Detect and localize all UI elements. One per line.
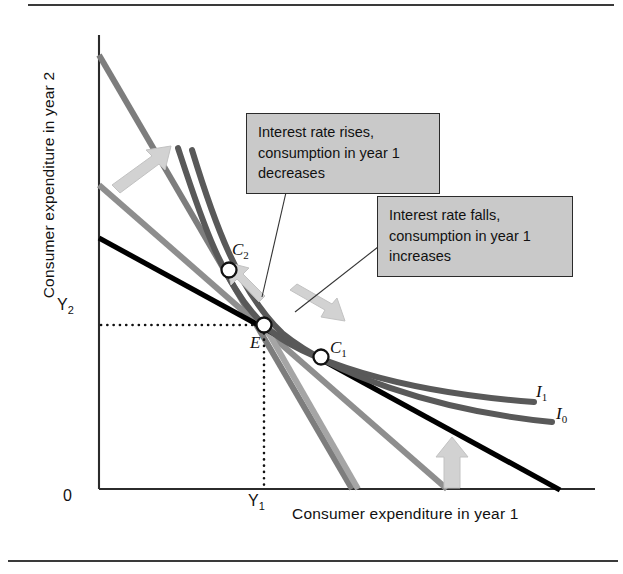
x-axis-title: Consumer expenditure in year 1: [292, 505, 519, 523]
point-label-E: E: [250, 333, 260, 353]
point-label-C1: C1: [330, 338, 347, 359]
curve-label-I1: I1: [536, 382, 547, 403]
point-E: [257, 318, 272, 333]
y2-tick-letter: Y: [57, 296, 68, 313]
point-C2: [222, 263, 237, 278]
y1-tick-subscript: 1: [259, 500, 265, 512]
point-label-C2-letter: C: [232, 240, 243, 259]
origin-label: 0: [63, 487, 72, 505]
curve-label-I1-subscript: 1: [542, 391, 548, 403]
y-axis-title: Consumer expenditure in year 2: [40, 40, 58, 330]
callout-interest-rate-rises: Interest rate rises, consumption in year…: [246, 113, 440, 194]
curve-label-I0-subscript: 0: [562, 413, 568, 425]
point-C1: [314, 350, 329, 365]
arrow-toward-c1: [290, 284, 345, 321]
reference-lines: [101, 325, 264, 489]
y1-tick-label: Y1: [248, 492, 265, 512]
point-label-E-letter: E: [250, 333, 260, 352]
arrow-upleft-budget-shift: [112, 146, 171, 193]
callout-interest-rate-falls: Interest rate falls, consumption in year…: [377, 196, 573, 277]
callout-leader-lines: [262, 175, 378, 312]
point-label-C2: C2: [232, 240, 249, 261]
y2-tick-label: Y2: [57, 296, 74, 316]
point-label-C1-subscript: 1: [341, 347, 347, 359]
curve-label-I0: I0: [556, 404, 567, 425]
point-label-C2-subscript: 2: [243, 249, 249, 261]
y1-tick-letter: Y: [248, 492, 259, 509]
y2-tick-subscript: 2: [68, 304, 74, 316]
point-label-C1-letter: C: [330, 338, 341, 357]
diagram-canvas: [0, 0, 623, 574]
interest-rate-consumption-diagram: Consumer expenditure in year 2 Consumer …: [0, 0, 623, 574]
